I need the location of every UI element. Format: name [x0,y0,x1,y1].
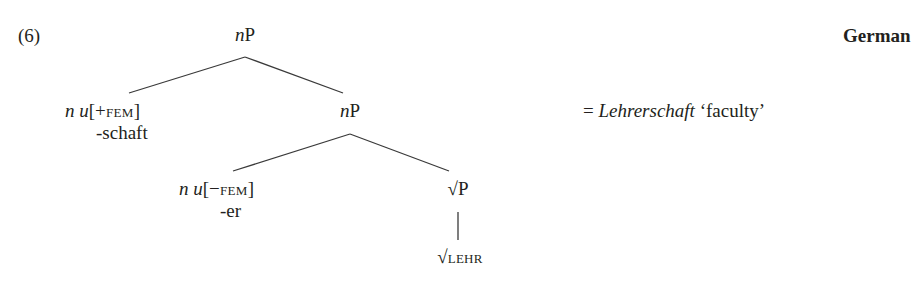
node-left-head: n u[+fem] [65,100,140,122]
branch-root-right [245,57,343,93]
gloss-translation: ‘faculty’ [700,100,765,121]
phrase-label: P [458,178,469,199]
n-symbol: n [179,178,189,199]
branch-np-left [233,134,350,171]
exponent-schaft: -schaft [96,122,148,144]
node-root-np: nP [235,24,255,46]
exponent-er: -er [220,200,241,222]
equals-sign: = [583,100,594,121]
node-root-lehr: √lehr [437,246,483,268]
phrase-label: P [244,24,255,45]
gloss-line: = Lehrerschaft ‘faculty’ [583,100,765,122]
language-label: German [843,25,911,47]
bracket-close: ] [134,100,140,121]
gloss-word: Lehrerschaft [598,100,694,121]
node-sqrt-p: √P [447,178,468,200]
phrase-label: P [349,100,360,121]
branch-root-left [129,57,245,93]
feature: −fem [209,178,248,199]
sqrt-symbol: √ [437,246,447,267]
u-symbol: u [79,100,89,121]
u-symbol: u [193,178,203,199]
feature: +fem [95,100,134,121]
root-label: lehr [448,246,483,267]
branch-np-right [350,134,449,171]
example-number: (6) [18,25,40,47]
sqrt-symbol: √ [447,178,457,199]
bracket-close: ] [248,178,254,199]
n-symbol: n [65,100,75,121]
n-symbol: n [235,24,245,45]
node-inner-np: nP [340,100,360,122]
node-inner-head: n u[−fem] [179,178,254,200]
n-symbol: n [340,100,350,121]
